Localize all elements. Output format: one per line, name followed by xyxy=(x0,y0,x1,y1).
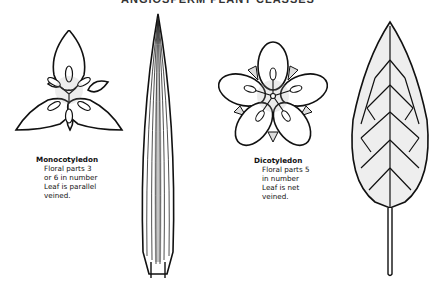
monocot-caption: Monocotyledon Floral parts 3 or 6 in num… xyxy=(36,155,98,200)
dicot-line: veined. xyxy=(254,192,310,201)
monocot-line: veined. xyxy=(36,191,98,200)
diagram-title: ANGIOSPERM PLANT CLASSES xyxy=(118,0,318,5)
monocot-line: Floral parts 3 xyxy=(36,164,98,173)
dicot-leaf-illustration xyxy=(345,20,435,278)
dicot-line: Leaf is net xyxy=(254,183,310,192)
dicot-flower-illustration xyxy=(218,40,328,152)
dicot-caption: Dicotyledon Floral parts 5 in number Lea… xyxy=(254,156,310,201)
dicot-line: in number xyxy=(254,174,310,183)
monocot-heading: Monocotyledon xyxy=(36,155,98,164)
monocot-flower-illustration xyxy=(14,30,124,142)
dicot-heading: Dicotyledon xyxy=(254,156,310,165)
dicot-line: Floral parts 5 xyxy=(254,165,310,174)
monocot-leaf-illustration xyxy=(133,12,183,280)
monocot-line: or 6 in number xyxy=(36,173,98,182)
monocot-line: Leaf is parallel xyxy=(36,182,98,191)
